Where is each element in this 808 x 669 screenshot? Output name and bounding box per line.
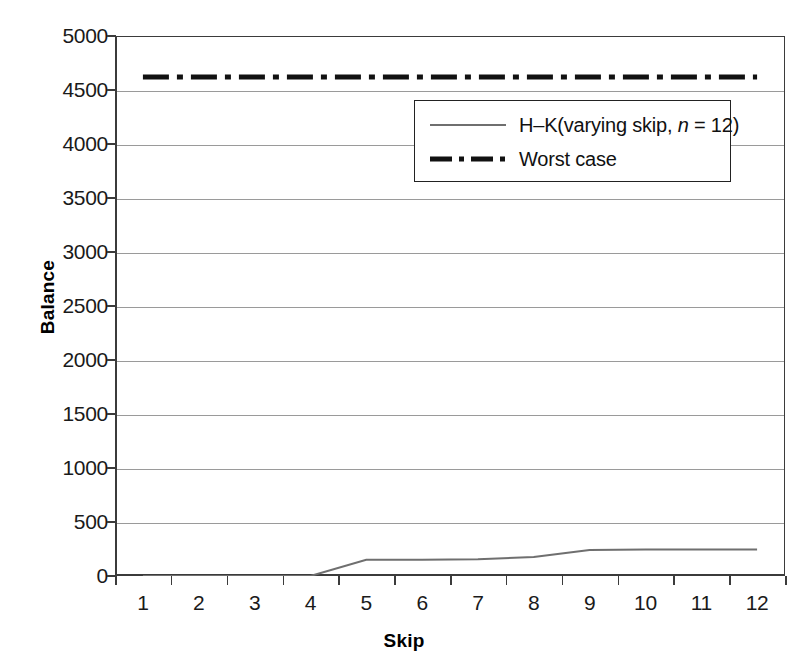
legend-line-dashdot-icon <box>429 152 507 166</box>
y-tick-mark <box>107 143 116 145</box>
x-tick-label: 3 <box>225 592 285 614</box>
gridline <box>117 253 784 254</box>
x-axis-title: Skip <box>0 630 808 652</box>
legend-label-hk: H–K(varying skip, n = 12) <box>519 115 739 135</box>
y-tick-label: 4500 <box>4 79 108 100</box>
gridline <box>117 469 784 470</box>
y-tick-label: 500 <box>4 511 108 532</box>
x-tick-mark <box>562 576 564 585</box>
y-tick-mark <box>107 35 116 37</box>
legend-swatch-worst-case <box>429 152 507 166</box>
y-tick-mark <box>107 89 116 91</box>
legend-swatch-hk <box>429 118 507 132</box>
y-tick-mark <box>107 413 116 415</box>
x-tick-label: 5 <box>336 592 396 614</box>
x-tick-label: 2 <box>169 592 229 614</box>
gridline <box>117 415 784 416</box>
chart-legend: H–K(varying skip, n = 12) Worst case <box>414 100 731 182</box>
x-tick-mark <box>115 576 117 585</box>
y-tick-mark <box>107 575 116 577</box>
y-tick-label: 5000 <box>4 25 108 46</box>
y-tick-label: 4000 <box>4 133 108 154</box>
line-chart: 0500100015002000250030003500400045005000… <box>0 0 808 669</box>
x-tick-mark <box>506 576 508 585</box>
x-tick-label: 12 <box>727 592 787 614</box>
y-tick-mark <box>107 251 116 253</box>
y-tick-label: 3500 <box>4 187 108 208</box>
x-tick-mark <box>227 576 229 585</box>
x-tick-mark <box>673 576 675 585</box>
gridline <box>117 523 784 524</box>
y-tick-mark <box>107 305 116 307</box>
x-tick-label: 9 <box>560 592 620 614</box>
x-tick-mark <box>729 576 731 585</box>
x-tick-mark <box>171 576 173 585</box>
x-tick-mark <box>450 576 452 585</box>
x-tick-mark <box>338 576 340 585</box>
x-tick-mark <box>785 576 787 585</box>
x-tick-mark <box>283 576 285 585</box>
y-tick-mark <box>107 197 116 199</box>
y-tick-mark <box>107 521 116 523</box>
y-tick-mark <box>107 359 116 361</box>
gridline <box>117 91 784 92</box>
x-tick-label: 6 <box>392 592 452 614</box>
x-tick-label: 10 <box>615 592 675 614</box>
x-tick-mark <box>394 576 396 585</box>
gridline <box>117 307 784 308</box>
x-tick-mark <box>618 576 620 585</box>
y-axis-title: Balance <box>37 227 59 367</box>
legend-line-solid-icon <box>429 118 507 132</box>
legend-label-worst-case: Worst case <box>519 149 617 169</box>
legend-item-worst-case: Worst case <box>415 142 730 176</box>
x-tick-label: 1 <box>113 592 173 614</box>
x-tick-label: 7 <box>448 592 508 614</box>
y-tick-label: 1000 <box>4 457 108 478</box>
x-tick-label: 4 <box>280 592 340 614</box>
gridline <box>117 361 784 362</box>
y-tick-label: 1500 <box>4 403 108 424</box>
gridline <box>117 199 784 200</box>
legend-item-hk: H–K(varying skip, n = 12) <box>415 108 730 142</box>
y-tick-mark <box>107 467 116 469</box>
y-tick-label: 0 <box>4 565 108 586</box>
x-tick-label: 8 <box>504 592 564 614</box>
x-tick-label: 11 <box>671 592 731 614</box>
